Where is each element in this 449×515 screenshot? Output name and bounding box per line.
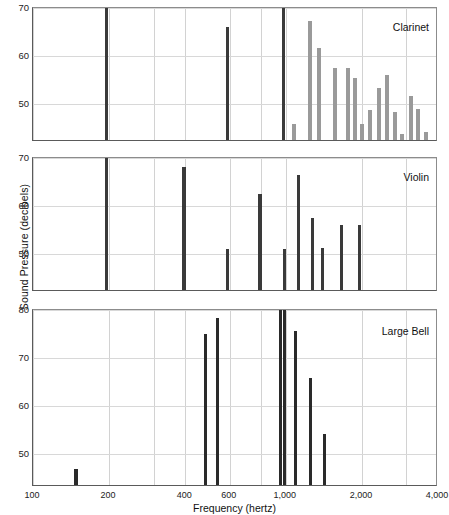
- x-tick-label: 600: [221, 490, 236, 500]
- plot-area: [32, 7, 437, 141]
- bar: [346, 68, 350, 140]
- x-tick-label: 4,000: [426, 490, 449, 500]
- bar: [182, 167, 185, 290]
- bar: [105, 157, 108, 290]
- panel-violin: 506070Violin: [32, 157, 437, 291]
- gridline-vertical: [230, 310, 231, 485]
- bar: [409, 96, 413, 141]
- panel-title: Violin: [404, 171, 430, 183]
- bar: [385, 75, 389, 140]
- x-axis: 1002004006001,0002,0004,000 Frequency (h…: [32, 488, 437, 515]
- gridline-vertical: [362, 310, 363, 485]
- gridline-vertical: [33, 310, 34, 485]
- x-tick-label: 2,000: [350, 490, 373, 500]
- bar: [204, 334, 207, 485]
- panel-title: Clarinet: [393, 21, 429, 33]
- bar: [323, 434, 326, 485]
- panel-large-bell: 50607080Large Bell: [32, 309, 437, 486]
- gridline-horizontal: [33, 158, 436, 159]
- y-tick-label: 70: [18, 2, 29, 13]
- bar: [416, 109, 420, 140]
- bar: [283, 309, 286, 485]
- bar: [368, 110, 372, 140]
- y-tick-label: 50: [18, 447, 29, 458]
- bar: [226, 27, 229, 140]
- y-tick-label: 60: [18, 49, 29, 60]
- gridline-vertical: [154, 310, 155, 485]
- gridline-vertical: [185, 310, 186, 485]
- gridline-vertical: [154, 158, 155, 290]
- plot-area: [32, 309, 437, 486]
- gridline-horizontal: [33, 310, 436, 311]
- panel-clarinet: 506070Clarinet: [32, 7, 437, 141]
- bar: [353, 78, 357, 140]
- x-tick-label: 100: [24, 490, 39, 500]
- gridline-vertical: [286, 8, 287, 140]
- bar: [279, 309, 282, 485]
- bar: [311, 218, 314, 290]
- bar: [377, 88, 381, 140]
- gridline-vertical: [261, 8, 262, 140]
- bar: [358, 225, 361, 290]
- gridline-vertical: [362, 158, 363, 290]
- bar: [393, 112, 397, 140]
- y-tick-label: 60: [18, 199, 29, 210]
- y-tick-label: 80: [18, 304, 29, 315]
- bar: [283, 249, 286, 290]
- plot-area: [32, 157, 437, 291]
- bar: [216, 318, 219, 485]
- bar: [308, 21, 312, 140]
- bar: [360, 124, 364, 140]
- gridline-horizontal: [33, 454, 436, 455]
- bar: [282, 7, 285, 140]
- gridline-vertical: [230, 158, 231, 290]
- y-tick-label: 60: [18, 399, 29, 410]
- x-tick-label: 400: [177, 490, 192, 500]
- gridline-horizontal: [33, 406, 436, 407]
- gridline-vertical: [185, 8, 186, 140]
- bar: [258, 194, 261, 290]
- bar: [309, 378, 312, 485]
- x-axis-label: Frequency (hertz): [32, 502, 437, 514]
- gridline-horizontal: [33, 56, 436, 57]
- gridline-vertical: [362, 8, 363, 140]
- bar: [340, 225, 343, 290]
- panel-title: Large Bell: [382, 325, 429, 337]
- bar: [400, 134, 404, 140]
- gridline-vertical: [154, 8, 155, 140]
- gridline-horizontal: [33, 104, 436, 105]
- gridline-vertical: [109, 158, 110, 290]
- y-tick-label: 50: [18, 247, 29, 258]
- bar: [292, 124, 296, 140]
- bar: [105, 7, 108, 140]
- x-tick-label: 200: [101, 490, 116, 500]
- gridline-vertical: [109, 8, 110, 140]
- y-tick-label: 70: [18, 152, 29, 163]
- y-tick-label: 70: [18, 351, 29, 362]
- bar: [424, 132, 428, 140]
- gridline-vertical: [286, 158, 287, 290]
- bar: [226, 249, 229, 290]
- bar: [294, 331, 297, 485]
- gridline-horizontal: [33, 254, 436, 255]
- bar: [297, 175, 300, 290]
- x-tick-label: 1,000: [274, 490, 297, 500]
- y-tick-label: 50: [18, 97, 29, 108]
- gridline-vertical: [261, 310, 262, 485]
- bar: [74, 469, 77, 485]
- gridline-vertical: [33, 8, 34, 140]
- bar: [321, 248, 324, 290]
- gridline-horizontal: [33, 206, 436, 207]
- gridline-vertical: [109, 310, 110, 485]
- gridline-horizontal: [33, 358, 436, 359]
- sound-pressure-frequency-figure: Sound Pressure (decibels) 506070Clarinet…: [0, 0, 449, 515]
- gridline-vertical: [230, 8, 231, 140]
- bar: [317, 48, 321, 140]
- gridline-vertical: [33, 158, 34, 290]
- bar: [333, 68, 337, 140]
- gridline-horizontal: [33, 8, 436, 9]
